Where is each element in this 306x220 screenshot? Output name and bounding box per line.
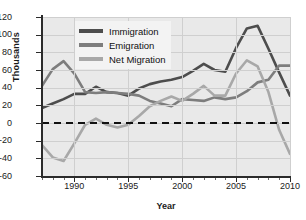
x-tick-minor [150,178,151,180]
x-tick-mark [236,178,237,182]
x-tick-minor [117,178,118,180]
x-tick-minor [193,178,194,180]
y-tick-mark [36,88,41,89]
legend-label-net-migration: Net Migration [109,54,166,65]
y-axis-title: Thousands [11,17,21,97]
x-tick-minor [247,178,248,180]
x-axis-title: Year [42,201,290,211]
legend-swatch-emigration [79,43,103,47]
y-tick-label: -60 [0,172,12,181]
x-tick-minor [96,178,97,180]
y-tick-mark [36,158,41,159]
chart-legend: Immigration Emigration Net Migration [75,21,171,69]
y-tick-mark [36,176,41,177]
chart-figure: Thousands Year 120100806040200-20-40-60 … [0,0,306,220]
x-tick-minor [107,178,108,180]
x-tick-label: 2000 [162,181,202,191]
y-tick-mark [36,105,41,106]
x-tick-minor [258,178,259,180]
x-tick-minor [204,178,205,180]
x-tick-mark [74,178,75,182]
x-tick-minor [171,178,172,180]
legend-item-emigration[interactable]: Emigration [79,38,166,52]
y-tick-label: 60 [0,66,12,75]
y-tick-mark [36,141,41,142]
x-tick-minor [53,178,54,180]
y-tick-label: 40 [0,83,12,92]
x-tick-minor [64,178,65,180]
y-tick-mark [36,70,41,71]
x-tick-minor [268,178,269,180]
gridline-vertical [290,17,291,176]
x-tick-minor [139,178,140,180]
y-tick-label: 80 [0,48,12,57]
y-tick-mark [36,17,41,18]
legend-swatch-immigration [79,29,103,33]
y-tick-label: 0 [0,119,12,128]
x-tick-minor [215,178,216,180]
y-tick-mark [36,52,41,53]
x-tick-mark [128,178,129,182]
legend-label-immigration: Immigration [109,26,159,37]
x-tick-label: 2005 [216,181,256,191]
y-tick-label: -40 [0,154,12,163]
x-tick-minor [85,178,86,180]
x-axis-line [41,176,291,178]
legend-label-emigration: Emigration [109,40,154,51]
legend-item-immigration[interactable]: Immigration [79,24,166,38]
x-tick-minor [42,178,43,180]
x-tick-minor [279,178,280,180]
x-tick-minor [161,178,162,180]
x-tick-mark [290,178,291,182]
x-tick-label: 1995 [108,181,148,191]
y-axis-line [41,15,43,178]
y-tick-label: 120 [0,13,12,22]
x-tick-mark [182,178,183,182]
legend-item-net-migration[interactable]: Net Migration [79,52,166,66]
legend-swatch-net-migration [79,57,103,61]
y-tick-mark [36,35,41,36]
y-tick-label: 20 [0,101,12,110]
x-tick-label: 1990 [54,181,94,191]
x-tick-minor [225,178,226,180]
y-tick-mark [36,123,41,124]
y-tick-label: -20 [0,136,12,145]
x-tick-label: 2010 [270,181,306,191]
y-tick-label: 100 [0,30,12,39]
